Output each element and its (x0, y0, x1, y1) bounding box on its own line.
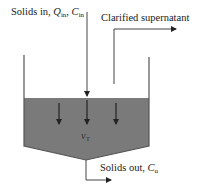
settling-velocity-label: vT (81, 131, 90, 143)
supernatant-label: Clarified supernatant (101, 13, 189, 24)
supernatant-arrow (114, 29, 176, 84)
outlet-label: Solids out, Cu (100, 163, 158, 175)
inlet-label: Solids in, Qin, Cin (11, 7, 84, 19)
